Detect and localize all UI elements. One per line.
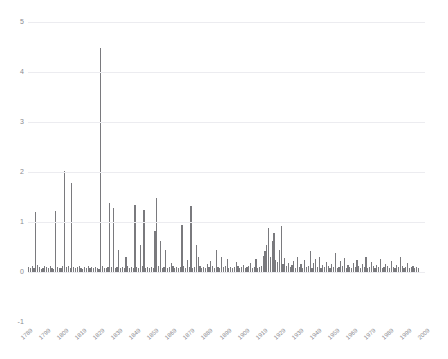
x-tick-label-1889: 1889 xyxy=(200,327,214,340)
gridline-5 xyxy=(28,22,425,23)
gridline-4 xyxy=(28,72,425,73)
y-tick-label-5: 5 xyxy=(2,18,24,25)
x-tick-label-1809: 1809 xyxy=(56,327,70,340)
x-tick-label-1949: 1949 xyxy=(308,327,322,340)
bar xyxy=(190,206,191,272)
x-tick-label-1849: 1849 xyxy=(128,327,142,340)
x-tick-label-1869: 1869 xyxy=(164,327,178,340)
y-tick-label-0: 0 xyxy=(2,268,24,275)
bar xyxy=(71,183,72,272)
y-tick-label-4: 4 xyxy=(2,68,24,75)
x-tick-label-1799: 1799 xyxy=(38,327,52,340)
x-tick-label-1839: 1839 xyxy=(110,327,124,340)
bar xyxy=(35,212,36,272)
x-tick-label-1919: 1919 xyxy=(254,327,268,340)
x-tick-label-1979: 1979 xyxy=(363,327,377,340)
bar xyxy=(100,48,101,272)
bar xyxy=(55,211,56,272)
x-tick-label-1929: 1929 xyxy=(272,327,286,340)
bar xyxy=(134,205,135,273)
gridline-0 xyxy=(28,272,425,273)
x-tick-label-1969: 1969 xyxy=(344,327,358,340)
gridline-3 xyxy=(28,122,425,123)
gridline-1 xyxy=(28,222,425,223)
x-tick-label-1999: 1999 xyxy=(399,327,413,340)
y-tick-label--1: -1 xyxy=(2,318,24,325)
gridline--1 xyxy=(28,322,425,323)
x-tick-label-1789: 1789 xyxy=(20,327,34,340)
y-tick-label-3: 3 xyxy=(2,118,24,125)
x-tick-label-1939: 1939 xyxy=(290,327,304,340)
bar xyxy=(156,198,157,272)
gridline-2 xyxy=(28,172,425,173)
x-tick-label-1879: 1879 xyxy=(182,327,196,340)
bar xyxy=(143,210,144,273)
x-tick-label-2009: 2009 xyxy=(417,327,431,340)
bar xyxy=(181,225,182,273)
y-tick-label-1: 1 xyxy=(2,218,24,225)
x-tick-label-1859: 1859 xyxy=(146,327,160,340)
y-tick-label-2: 2 xyxy=(2,168,24,175)
bar xyxy=(113,208,114,272)
x-tick-label-1959: 1959 xyxy=(326,327,340,340)
x-tick-label-1819: 1819 xyxy=(74,327,88,340)
x-tick-label-1909: 1909 xyxy=(236,327,250,340)
x-tick-label-1829: 1829 xyxy=(92,327,106,340)
x-tick-label-1989: 1989 xyxy=(381,327,395,340)
spike-chart: 543210-1 1789179918091819182918391849185… xyxy=(0,0,448,359)
bar xyxy=(109,203,110,272)
x-tick-label-1899: 1899 xyxy=(218,327,232,340)
